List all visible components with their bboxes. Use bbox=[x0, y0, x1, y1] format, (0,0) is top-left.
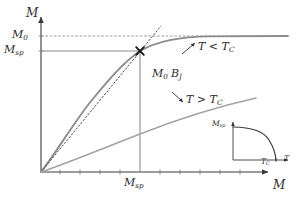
above-tc-arrow-icon bbox=[172, 92, 183, 102]
x-tick-label-msp: Msp bbox=[124, 177, 144, 189]
magnetization-figure: M M M0 Msp Msp T < TC M0BJ T > TC Msp T … bbox=[0, 0, 304, 202]
inset-x-axis-label: T bbox=[284, 155, 289, 163]
inset-y-axis-label-sub: sp bbox=[220, 122, 226, 128]
brillouin-m: M bbox=[152, 67, 163, 80]
y-tick-label-m0-sub: 0 bbox=[23, 33, 28, 42]
inset-tick-label-tc: TC bbox=[261, 158, 270, 166]
y-tick-label-m0: M0 bbox=[12, 29, 28, 41]
annotation-brillouin-function: M0BJ bbox=[152, 68, 182, 80]
annotation-above-tc: T > TC bbox=[186, 94, 222, 106]
inset-tick-label-tc-sub: C bbox=[266, 160, 270, 166]
x-tick-label-msp-main: M bbox=[124, 176, 135, 189]
inset-order-parameter-curve bbox=[233, 127, 276, 160]
y-tick-label-msp-main: M bbox=[4, 43, 15, 56]
brillouin-script-b: B bbox=[171, 67, 179, 80]
y-axis-label: M bbox=[26, 7, 38, 19]
annotation-below-tc-sub: C bbox=[229, 45, 235, 54]
x-tick-label-msp-sub: sp bbox=[135, 181, 143, 190]
paramagnetic-curve bbox=[41, 98, 256, 172]
inset-y-axis-label-main: M bbox=[212, 119, 220, 128]
below-tc-arrow-icon bbox=[182, 43, 195, 54]
y-tick-label-msp-sub: sp bbox=[15, 48, 23, 57]
annotation-above-tc-sub: C bbox=[217, 98, 223, 107]
annotation-below-tc: T < TC bbox=[198, 41, 234, 53]
annotation-above-tc-tc: T bbox=[210, 93, 217, 106]
annotation-below-tc-tc: T bbox=[222, 40, 229, 53]
y-tick-label-m0-main: M bbox=[12, 28, 23, 41]
inset-plot bbox=[233, 122, 288, 162]
annotation-above-tc-relation: > bbox=[193, 93, 209, 106]
y-tick-label-msp: Msp bbox=[4, 44, 24, 56]
plot-canvas bbox=[0, 0, 304, 202]
brillouin-m-sub: 0 bbox=[163, 72, 168, 81]
brillouin-script-sub: J bbox=[179, 72, 182, 81]
inset-y-axis-label: Msp bbox=[212, 120, 225, 128]
x-axis-label: M bbox=[273, 179, 285, 191]
annotation-below-tc-relation: < bbox=[205, 40, 221, 53]
brillouin-curve bbox=[41, 36, 288, 172]
